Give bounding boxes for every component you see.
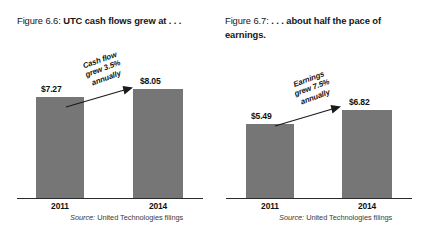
x-axis-tick-2011: 2011 bbox=[246, 201, 294, 211]
source-note-text: United Technologies filings bbox=[306, 213, 392, 222]
source-note-prefix: Source: bbox=[279, 213, 304, 222]
x-axis-line bbox=[17, 198, 203, 199]
x-axis-tick-2011: 2011 bbox=[36, 201, 84, 211]
x-axis-tick-2014: 2014 bbox=[133, 201, 183, 211]
figure-6-7: Figure 6.7: . . . about half the pace of… bbox=[211, 0, 423, 240]
bar-chart-plot: $5.49 $6.82 Earnings grew 7.5% annually … bbox=[211, 0, 423, 240]
bar-chart-plot: $7.27 $8.05 Cash flow grew 3.5% annually… bbox=[0, 0, 212, 240]
x-axis-line bbox=[226, 198, 412, 199]
x-axis-tick-2014: 2014 bbox=[342, 201, 392, 211]
source-note: Source: United Technologies filings bbox=[70, 213, 183, 222]
figure-6-6: Figure 6.6: UTC cash flows grew at . . .… bbox=[0, 0, 212, 240]
source-note-text: United Technologies filings bbox=[97, 213, 183, 222]
source-note-prefix: Source: bbox=[70, 213, 95, 222]
source-note: Source: United Technologies filings bbox=[279, 213, 392, 222]
